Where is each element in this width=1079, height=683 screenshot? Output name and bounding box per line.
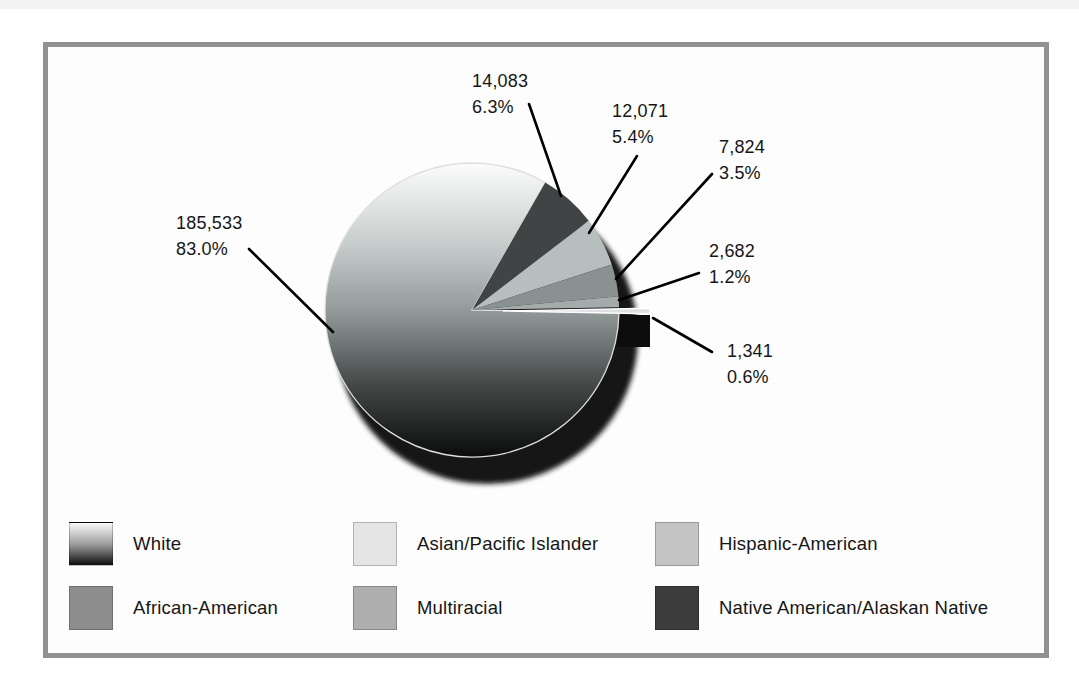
- legend-item-native-american: Native American/Alaskan Native: [655, 586, 988, 630]
- callout-asian-pct: 0.6%: [727, 364, 773, 390]
- callout-native-value: 14,083: [472, 68, 528, 94]
- callout-multiracial-value: 2,682: [709, 238, 755, 264]
- legend-item-asian: Asian/Pacific Islander: [353, 522, 598, 566]
- legend-item-african-american: African-American: [69, 586, 278, 630]
- legend-label-white: White: [133, 533, 181, 555]
- callout-hispanic-pct: 5.4%: [612, 124, 668, 150]
- legend-item-hispanic: Hispanic-American: [655, 522, 878, 566]
- leader-line-hispanic: [589, 156, 637, 233]
- leader-line-white: [249, 249, 333, 332]
- legend-swatch-native-american: [655, 586, 699, 630]
- legend-label-hispanic: Hispanic-American: [719, 533, 878, 555]
- callout-native-american: 14,083 6.3%: [472, 68, 528, 120]
- legend-swatch-african-american: [69, 586, 113, 630]
- callout-white-value: 185,533: [176, 210, 242, 236]
- legend-label-african-american: African-American: [133, 597, 278, 619]
- leader-line-native-american: [529, 104, 561, 196]
- callout-multiracial: 2,682 1.2%: [709, 238, 755, 290]
- callout-hispanic: 12,071 5.4%: [612, 98, 668, 150]
- callout-asian: 1,341 0.6%: [727, 338, 773, 390]
- callout-multiracial-pct: 1.2%: [709, 264, 755, 290]
- legend-label-multiracial: Multiracial: [417, 597, 502, 619]
- legend-label-native-american: Native American/Alaskan Native: [719, 597, 988, 619]
- callout-white-pct: 83.0%: [176, 236, 242, 262]
- callout-african-value: 7,824: [719, 134, 765, 160]
- callout-native-pct: 6.3%: [472, 94, 528, 120]
- callout-hispanic-value: 12,071: [612, 98, 668, 124]
- legend-swatch-hispanic: [655, 522, 699, 566]
- leader-line-asian: [653, 318, 712, 352]
- leader-line-multiracial: [619, 273, 699, 300]
- leader-lines: [0, 0, 1079, 683]
- leader-line-african-american: [616, 174, 712, 279]
- legend-swatch-white: [69, 522, 113, 566]
- callout-white: 185,533 83.0%: [176, 210, 242, 262]
- callout-asian-value: 1,341: [727, 338, 773, 364]
- callout-african-american: 7,824 3.5%: [719, 134, 765, 186]
- legend-label-asian: Asian/Pacific Islander: [417, 533, 598, 555]
- legend-swatch-asian: [353, 522, 397, 566]
- legend-swatch-multiracial: [353, 586, 397, 630]
- legend-item-white: White: [69, 522, 181, 566]
- legend-item-multiracial: Multiracial: [353, 586, 502, 630]
- callout-african-pct: 3.5%: [719, 160, 765, 186]
